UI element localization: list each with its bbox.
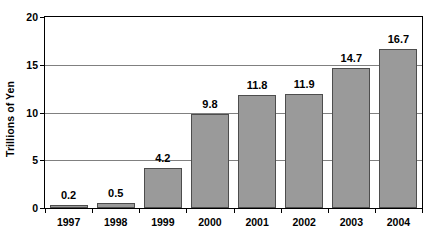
x-axis-tick-label: 2004 [387, 217, 410, 228]
x-axis-tick-mark [92, 208, 93, 213]
bar [191, 114, 229, 208]
x-axis-tick-mark [328, 208, 329, 213]
x-axis-tick-mark [375, 208, 376, 213]
y-axis-tick-mark [40, 160, 45, 161]
bar [379, 49, 417, 208]
gridline [45, 65, 422, 66]
x-axis-tick-label: 2001 [245, 217, 268, 228]
y-axis-tick-label: 5 [12, 155, 38, 166]
bar-value-label: 0.5 [108, 188, 123, 199]
x-axis-tick-label: 1999 [151, 217, 174, 228]
bar-value-label: 16.7 [388, 34, 409, 45]
bar-value-label: 11.9 [294, 79, 315, 90]
bar [285, 94, 323, 208]
x-axis-tick-mark [139, 208, 140, 213]
y-axis-tick-label: 20 [12, 12, 38, 23]
y-axis-tick-labels: 05101520 [8, 0, 38, 238]
bar-value-label: 14.7 [341, 53, 362, 64]
bar-value-label: 0.2 [61, 190, 76, 201]
y-axis-tick-label: 0 [12, 203, 38, 214]
bar-value-label: 11.8 [247, 80, 268, 91]
x-axis-tick-label: 2003 [340, 217, 363, 228]
x-axis-tick-mark [45, 208, 46, 213]
bar [332, 68, 370, 208]
bar-chart: Trillions of Yen 05101520 19971998199920… [0, 0, 438, 238]
bar [238, 95, 276, 208]
y-axis-tick-mark [40, 17, 45, 18]
x-axis-tick-label: 2000 [198, 217, 221, 228]
y-axis-tick-label: 15 [12, 60, 38, 71]
bar [144, 168, 182, 208]
x-axis-tick-label: 2002 [293, 217, 316, 228]
y-axis-tick-mark [40, 65, 45, 66]
bar [97, 203, 135, 208]
bar-value-label: 9.8 [202, 99, 217, 110]
x-axis-tick-label: 1998 [104, 217, 127, 228]
plot-area [44, 16, 423, 209]
y-axis-tick-mark [40, 113, 45, 114]
bar [50, 205, 88, 208]
x-axis-tick-mark [422, 208, 423, 213]
y-axis-tick-label: 10 [12, 107, 38, 118]
x-axis-tick-mark [234, 208, 235, 213]
x-axis-tick-label: 1997 [57, 217, 80, 228]
x-axis-tick-mark [281, 208, 282, 213]
bar-value-label: 4.2 [155, 153, 170, 164]
x-axis-tick-mark [186, 208, 187, 213]
